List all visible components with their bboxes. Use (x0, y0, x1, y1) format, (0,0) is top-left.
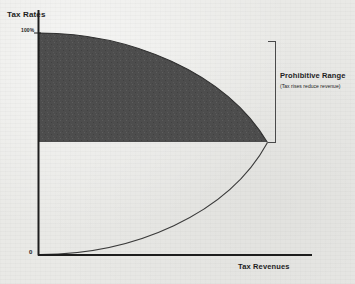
prohibitive-range-title: Prohibitive Range (280, 71, 345, 80)
x-axis-title: Tax Revenues (238, 263, 290, 271)
origin-label: 0 (29, 249, 32, 256)
prohibitive-range-bracket (268, 41, 276, 143)
prohibitive-range-annotation: Prohibitive Range (Tax rises reduce reve… (280, 71, 345, 89)
prohibitive-range-subtitle: (Tax rises reduce revenue) (280, 83, 345, 89)
laffer-curve-lower-branch (40, 143, 268, 255)
y-axis-title: Tax Rates (7, 11, 46, 20)
laffer-curve-figure: Tax Rates 100% 0 Tax Revenues Prohibitiv… (0, 0, 355, 284)
chart-canvas (0, 0, 355, 284)
y-axis-tick-label-100-percent: 100% (21, 28, 34, 34)
prohibitive-range-shading (39, 33, 267, 142)
